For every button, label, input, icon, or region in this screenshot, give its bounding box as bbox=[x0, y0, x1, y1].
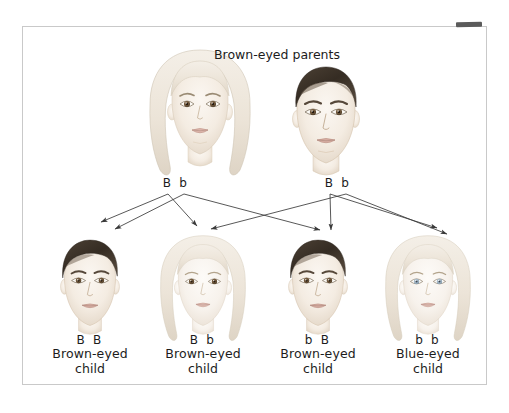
caption-child-2: Brown-eyed child bbox=[153, 346, 253, 377]
caption-child-3: Brown-eyed child bbox=[268, 346, 368, 377]
genotype-father: B b bbox=[308, 176, 368, 190]
caption-child-1: Brown-eyed child bbox=[40, 346, 140, 377]
genotype-child-2: B b bbox=[173, 333, 233, 347]
genotype-mother: B b bbox=[146, 176, 206, 190]
caption-child-4: Blue-eyed child bbox=[378, 346, 478, 377]
genotype-child-3: b B bbox=[288, 333, 348, 347]
genotype-child-4: b b bbox=[398, 333, 458, 347]
diagram-frame-border bbox=[22, 26, 487, 385]
corner-fold-mark bbox=[456, 22, 482, 28]
parents-title-label: Brown-eyed parents bbox=[212, 47, 342, 63]
genetics-inheritance-diagram: Brown-eyed parents B b B b B B Brown-eye… bbox=[0, 0, 509, 413]
genotype-child-1: B B bbox=[60, 333, 120, 347]
